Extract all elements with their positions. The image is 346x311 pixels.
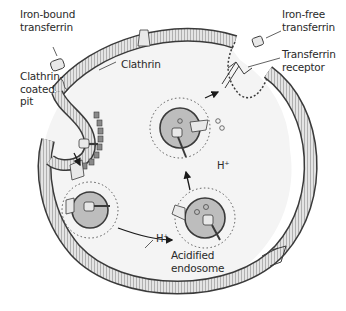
label-h-plus-top: H⁺ <box>217 160 229 173</box>
label-iron-free-transferrin: Iron-free transferrin <box>282 8 335 33</box>
label-clathrin-coated-pit: Clathrin- coated pit <box>20 70 63 108</box>
label-clathrin: Clathrin <box>121 58 161 71</box>
label-acidified-endosome: Acidified endosome <box>171 249 224 274</box>
label-transferrin-receptor: Transferrin receptor <box>282 48 336 73</box>
membrane-protein-top <box>138 30 150 46</box>
iron-bound-transferrin-icon <box>50 47 66 72</box>
label-iron-bound-transferrin: Iron-bound transferrin <box>20 8 75 33</box>
transferrin-in-pit <box>79 139 89 148</box>
endocytosis-diagram: Iron-bound transferrin Clathrin- coated … <box>0 0 346 311</box>
iron-free-transferrin-icon <box>252 31 281 47</box>
label-h-plus-left: H⁺ <box>156 233 168 246</box>
